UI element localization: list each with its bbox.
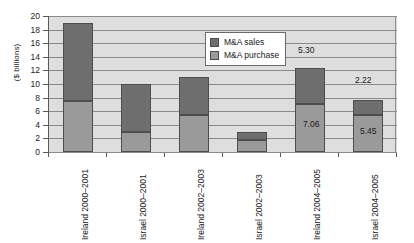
y-tick-label: 10 [14, 80, 40, 89]
bar-group[interactable] [295, 16, 325, 152]
gridline [49, 16, 397, 17]
y-axis-title: ($ billions) [12, 23, 21, 103]
x-tick-mark [396, 153, 397, 157]
x-tick-mark [222, 153, 223, 157]
bar-group[interactable] [121, 16, 151, 152]
y-tick-mark [43, 138, 48, 139]
x-category-label: Ireland 2002–2003 [197, 169, 206, 240]
bar-segment-sales[interactable] [353, 100, 383, 115]
x-tick-mark [106, 153, 107, 157]
y-tick-label: 2 [14, 134, 40, 143]
x-tick-mark [280, 153, 281, 157]
y-tick-mark [43, 98, 48, 99]
y-tick-label: 12 [14, 66, 40, 75]
x-tick-mark [48, 153, 49, 157]
y-tick-label: 16 [14, 39, 40, 48]
legend-item-sales: M&A sales [210, 36, 279, 49]
bar-segment-purchase[interactable] [121, 132, 151, 152]
y-tick-mark [43, 30, 48, 31]
x-category-label: Israel 2002–2003 [255, 174, 264, 240]
x-tick-mark [164, 153, 165, 157]
y-tick-mark [43, 16, 48, 17]
bar-group[interactable] [63, 16, 93, 152]
bar-value-label: 5.30 [298, 46, 315, 55]
y-tick-label: 14 [14, 53, 40, 62]
bar-value-label: 2.22 [355, 76, 372, 85]
gridline [49, 111, 397, 112]
x-tick-mark [338, 153, 339, 157]
y-tick-label: 8 [14, 94, 40, 103]
y-tick-mark [43, 70, 48, 71]
chart-legend: M&A sales M&A purchase [205, 32, 286, 66]
legend-swatch-purchase-icon [210, 51, 219, 60]
bar-value-label: 5.45 [360, 127, 377, 136]
y-tick-mark [43, 125, 48, 126]
y-tick-label: 20 [14, 12, 40, 21]
x-category-label: Ireland 2004–2005 [313, 169, 322, 240]
stacked-bar-chart: ($ billions) 20181614121086420 Ireland 2… [0, 0, 414, 243]
bar-segment-sales[interactable] [295, 68, 325, 104]
x-category-label: Ireland 2000–2001 [81, 169, 90, 240]
legend-swatch-sales-icon [210, 38, 219, 47]
bar-segment-purchase[interactable] [179, 115, 209, 152]
plot-right-border [395, 16, 396, 153]
gridline [49, 98, 397, 99]
gridline [49, 30, 397, 31]
y-tick-label: 6 [14, 107, 40, 116]
y-tick-mark [43, 57, 48, 58]
bar-segment-sales[interactable] [63, 23, 93, 101]
bar-segment-sales[interactable] [121, 84, 151, 132]
x-category-label: Israel 2000–2001 [139, 174, 148, 240]
y-tick-label: 0 [14, 148, 40, 157]
bar-segment-sales[interactable] [179, 77, 209, 114]
legend-label-purchase: M&A purchase [224, 51, 279, 60]
y-tick-label: 18 [14, 26, 40, 35]
y-tick-label: 4 [14, 121, 40, 130]
y-tick-mark [43, 43, 48, 44]
bar-segment-purchase[interactable] [63, 101, 93, 152]
gridline [49, 84, 397, 85]
bar-value-label: 7.06 [303, 120, 320, 129]
gridline [49, 152, 397, 153]
legend-label-sales: M&A sales [224, 38, 264, 47]
bar-segment-sales[interactable] [237, 132, 267, 139]
y-tick-mark [43, 111, 48, 112]
gridline [49, 125, 397, 126]
bar-segment-purchase[interactable] [237, 140, 267, 152]
gridline [49, 70, 397, 71]
y-tick-mark [43, 84, 48, 85]
x-category-label: Israel 2004–2005 [371, 174, 380, 240]
gridline [49, 138, 397, 139]
legend-item-purchase: M&A purchase [210, 49, 279, 62]
